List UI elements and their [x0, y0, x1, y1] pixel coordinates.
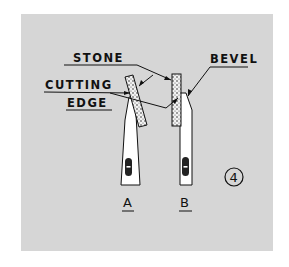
label-view-a: A — [123, 195, 132, 210]
label-cutting: CUTTING — [45, 78, 113, 92]
sharpening-diagram: STONE BEVEL CUTTING EDGE A B 4 — [0, 0, 289, 267]
figure-number: 4 — [230, 170, 238, 185]
label-stone: STONE — [73, 51, 124, 65]
label-bevel: BEVEL — [210, 52, 258, 66]
figure-number-badge: 4 — [225, 168, 243, 186]
label-view-b: B — [180, 195, 189, 210]
tool-b — [180, 93, 192, 185]
label-edge: EDGE — [67, 96, 108, 110]
